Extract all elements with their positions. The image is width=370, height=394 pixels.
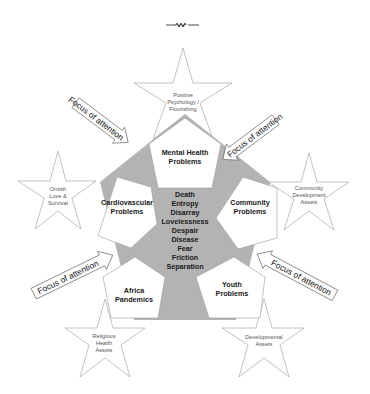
arrow-bottom-left: Focus of attention	[29, 246, 117, 303]
svg-text:Mental Health: Mental Health	[162, 148, 209, 157]
svg-text:Fear: Fear	[177, 244, 192, 253]
arrow-label: Focus of attention	[270, 257, 334, 297]
arrow-top-left: Focus of attention	[64, 90, 135, 150]
svg-text:Lovelessness: Lovelessness	[161, 217, 208, 226]
svg-text:Health: Health	[96, 340, 112, 346]
arrow-label: Focus of attention	[67, 94, 126, 142]
svg-text:Friction: Friction	[172, 253, 198, 262]
diagram-canvas: Focus of attention Focus of attention Fo…	[0, 0, 370, 394]
svg-text:Problems: Problems	[234, 207, 267, 216]
star-label-ornish: Ornish Love & Survival	[48, 186, 68, 206]
svg-text:Africa: Africa	[124, 286, 145, 295]
svg-text:Assets: Assets	[96, 347, 113, 353]
svg-text:Assets: Assets	[256, 341, 273, 347]
svg-text:Disarray: Disarray	[171, 208, 200, 217]
svg-text:Death: Death	[175, 190, 195, 199]
svg-text:Problems: Problems	[216, 289, 249, 298]
arrow-label: Focus of attention	[36, 258, 101, 296]
svg-text:Despair: Despair	[172, 226, 199, 235]
svg-text:Ornish: Ornish	[50, 186, 66, 192]
svg-text:Community: Community	[230, 198, 270, 207]
svg-text:Disease: Disease	[171, 235, 198, 244]
arrow-top-right: Focus of attention	[217, 107, 288, 167]
svg-text:Pandemics: Pandemics	[115, 295, 153, 304]
svg-text:Religious: Religious	[92, 333, 115, 339]
svg-text:Entropy: Entropy	[171, 199, 198, 208]
arrow-label: Focus of attention	[225, 111, 284, 159]
svg-text:Cardiovascular: Cardiovascular	[101, 198, 153, 207]
pentagon-label-mental-health: Mental Health Problems	[162, 148, 209, 166]
svg-text:Development: Development	[293, 192, 326, 198]
svg-text:Problems: Problems	[169, 157, 202, 166]
svg-text:Problems: Problems	[111, 207, 144, 216]
svg-text:Psychology /: Psychology /	[167, 99, 199, 105]
svg-text:Positive: Positive	[173, 92, 193, 98]
svg-text:Separation: Separation	[166, 262, 203, 271]
svg-text:Youth: Youth	[222, 280, 242, 289]
arrow-bottom-right: Focus of attention	[253, 245, 340, 304]
svg-text:Love &: Love &	[49, 193, 67, 199]
svg-text:Developmental: Developmental	[245, 334, 282, 340]
pentagon-label-community: Community Problems	[230, 198, 270, 216]
svg-text:Flourishing: Flourishing	[169, 106, 196, 112]
wavy-divider-icon	[166, 24, 199, 27]
svg-text:Survival: Survival	[48, 200, 68, 206]
svg-text:Assets: Assets	[301, 199, 318, 205]
svg-text:Community: Community	[295, 185, 323, 191]
